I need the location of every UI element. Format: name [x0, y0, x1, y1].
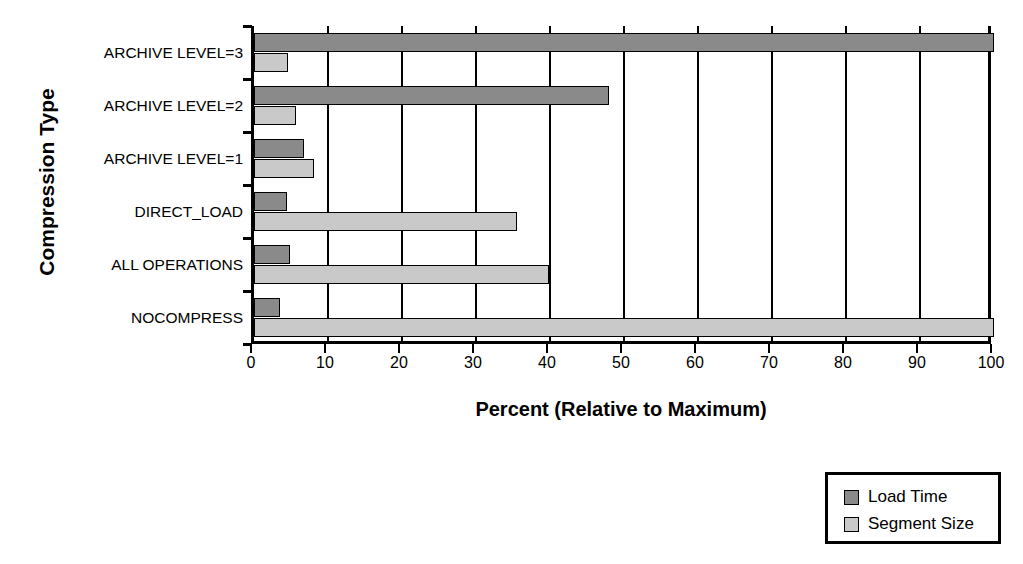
category-label: DIRECT_LOAD	[40, 204, 243, 220]
x-axis-tick-label: 60	[665, 354, 725, 372]
bar	[254, 298, 280, 317]
bar	[254, 318, 994, 337]
x-axis-tick	[324, 344, 326, 353]
x-axis-tick	[620, 344, 622, 353]
y-axis-tick	[243, 131, 252, 134]
x-axis-title: Percent (Relative to Maximum)	[251, 398, 991, 421]
bar	[254, 212, 517, 231]
bar-group	[254, 291, 988, 344]
x-axis-tick	[842, 344, 844, 353]
bar	[254, 53, 288, 72]
bar-chart: Compression Type ARCHIVE LEVEL=3ARCHIVE …	[0, 0, 1023, 564]
y-axis-tick	[243, 237, 252, 240]
y-axis-tick	[243, 343, 252, 346]
x-axis-tick-label: 80	[813, 354, 873, 372]
legend: Load TimeSegment Size	[825, 472, 1001, 544]
x-axis-tick-label: 90	[887, 354, 947, 372]
x-axis-tick	[398, 344, 400, 353]
bar	[254, 33, 994, 52]
bar	[254, 265, 549, 284]
category-label: ARCHIVE LEVEL=3	[40, 45, 243, 61]
bar-group	[254, 132, 988, 185]
legend-item: Load Time	[844, 485, 998, 509]
y-axis-tick	[243, 184, 252, 187]
category-label: NOCOMPRESS	[40, 310, 243, 326]
x-axis-tick-label: 20	[369, 354, 429, 372]
legend-item: Segment Size	[844, 512, 998, 536]
category-label: ARCHIVE LEVEL=2	[40, 98, 243, 114]
plot-area	[251, 26, 991, 344]
category-label: ARCHIVE LEVEL=1	[40, 151, 243, 167]
legend-label: Load Time	[868, 487, 947, 507]
bar	[254, 245, 290, 264]
bar-group	[254, 238, 988, 291]
y-axis-tick	[243, 78, 252, 81]
bar-group	[254, 185, 988, 238]
x-axis-tick-label: 40	[517, 354, 577, 372]
legend-label: Segment Size	[868, 514, 974, 534]
x-axis-tick-label: 50	[591, 354, 651, 372]
x-axis-tick-label: 100	[961, 354, 1021, 372]
x-axis-tick	[546, 344, 548, 353]
x-axis-tick-label: 70	[739, 354, 799, 372]
bar-group	[254, 79, 988, 132]
x-axis-tick	[916, 344, 918, 353]
x-axis-tick-label: 0	[221, 354, 281, 372]
bar	[254, 192, 287, 211]
x-axis-tick	[694, 344, 696, 353]
x-axis-tick-label: 30	[443, 354, 503, 372]
bar	[254, 106, 296, 125]
legend-swatch-icon	[844, 490, 859, 505]
bar	[254, 139, 304, 158]
x-axis-tick	[990, 344, 992, 353]
category-axis-labels: ARCHIVE LEVEL=3ARCHIVE LEVEL=2ARCHIVE LE…	[40, 26, 243, 344]
y-axis-tick	[243, 25, 252, 28]
bar	[254, 159, 314, 178]
x-axis-tick	[768, 344, 770, 353]
bar	[254, 86, 609, 105]
x-axis-tick-label: 10	[295, 354, 355, 372]
x-axis-tick	[472, 344, 474, 353]
bar-group	[254, 26, 988, 79]
y-axis-tick	[243, 290, 252, 293]
legend-swatch-icon	[844, 517, 859, 532]
category-label: ALL OPERATIONS	[40, 257, 243, 273]
